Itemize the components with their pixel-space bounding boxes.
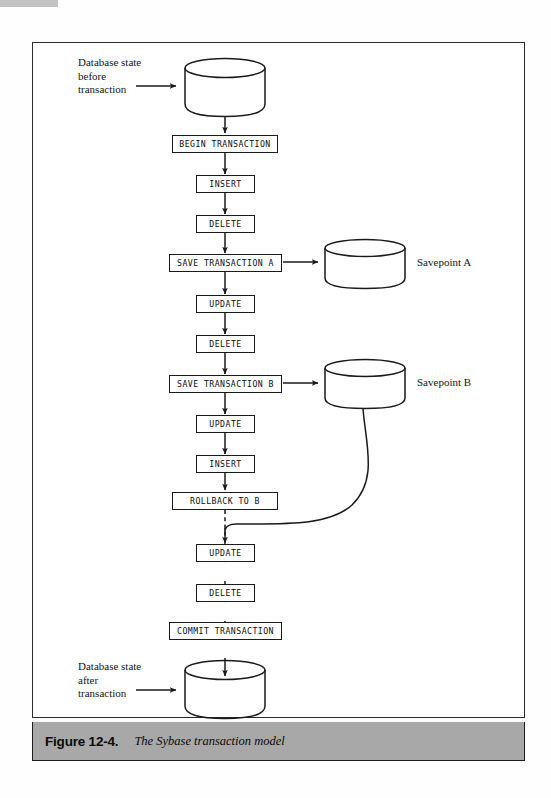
step-label: DELETE: [209, 340, 241, 348]
step-label: DELETE: [209, 220, 241, 228]
step-label: UPDATE: [209, 549, 241, 557]
step-save-transaction-a[interactable]: SAVE TRANSACTION A: [169, 254, 282, 272]
step-label: DELETE: [209, 589, 241, 597]
step-label: INSERT: [209, 460, 241, 468]
step-commit-transaction[interactable]: COMMIT TRANSACTION: [169, 622, 282, 640]
step-update-3[interactable]: UPDATE: [196, 544, 255, 562]
step-label: UPDATE: [209, 300, 241, 308]
figure-caption-bar: Figure 12-4. The Sybase transaction mode…: [32, 722, 525, 761]
figure-number: Figure 12-4.: [45, 734, 118, 749]
step-delete-1[interactable]: DELETE: [196, 215, 255, 233]
step-label: SAVE TRANSACTION A: [177, 259, 274, 267]
step-label: UPDATE: [209, 420, 241, 428]
step-label: COMMIT TRANSACTION: [177, 627, 274, 635]
scan-artifact: [0, 0, 58, 7]
step-label: SAVE TRANSACTION B: [177, 380, 274, 388]
step-update-2[interactable]: UPDATE: [196, 415, 255, 433]
step-update-1[interactable]: UPDATE: [196, 295, 255, 313]
annotation-database-state-after: Database state after transaction: [78, 660, 158, 701]
step-label: BEGIN TRANSACTION: [179, 140, 270, 148]
step-delete-3[interactable]: DELETE: [196, 584, 255, 602]
figure-caption-text: The Sybase transaction model: [134, 734, 284, 749]
step-rollback-to-b[interactable]: ROLLBACK TO B: [172, 492, 278, 510]
step-insert-1[interactable]: INSERT: [196, 175, 255, 193]
step-save-transaction-b[interactable]: SAVE TRANSACTION B: [169, 375, 282, 393]
step-label: ROLLBACK TO B: [190, 497, 260, 505]
step-insert-2[interactable]: INSERT: [196, 455, 255, 473]
step-label: INSERT: [209, 180, 241, 188]
annotation-database-state-before: Database state before transaction: [78, 56, 158, 97]
step-delete-2[interactable]: DELETE: [196, 335, 255, 353]
savepoint-b-label: Savepoint B: [417, 376, 471, 388]
savepoint-a-label: Savepoint A: [417, 256, 471, 268]
step-begin-transaction[interactable]: BEGIN TRANSACTION: [172, 135, 278, 153]
